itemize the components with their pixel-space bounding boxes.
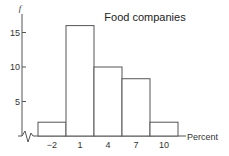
x-tick-label: 4 — [105, 140, 110, 150]
chart-title: Food companies — [104, 11, 186, 23]
x-tick-label: 7 — [133, 140, 138, 150]
histogram-bar-1 — [66, 26, 94, 136]
histogram-bar-7 — [122, 79, 150, 136]
histogram-bar--2 — [38, 122, 66, 136]
x-tick-label: 10 — [159, 140, 169, 150]
x-tick-label: 1 — [77, 140, 82, 150]
histogram-bar-10 — [150, 122, 178, 136]
y-tick-label: 10 — [10, 62, 20, 72]
y-tick-label: 15 — [10, 28, 20, 38]
y-axis: 51015 — [10, 14, 26, 136]
histogram-bar-4 — [94, 67, 122, 136]
y-axis-label: f — [19, 3, 23, 13]
x-tick-label: −2 — [47, 140, 57, 150]
bars — [38, 26, 178, 136]
x-axis-label: Percent — [187, 132, 219, 142]
y-tick-label: 5 — [15, 97, 20, 107]
histogram-chart: Food companies f Percent 51015 −214710 — [0, 0, 229, 156]
